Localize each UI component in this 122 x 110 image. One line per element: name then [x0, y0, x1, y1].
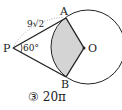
shaded-region [51, 18, 84, 77]
point-label-A: A [60, 6, 68, 17]
length-label: 9√2 [27, 20, 44, 29]
angle-arc [21, 44, 22, 52]
point-label-B: B [61, 79, 69, 90]
point-label-O: O [88, 43, 97, 54]
angle-label: 60° [23, 44, 39, 53]
answer-label: ③ 20π [28, 91, 66, 103]
center-dot [83, 47, 86, 50]
point-label-P: P [3, 43, 10, 54]
